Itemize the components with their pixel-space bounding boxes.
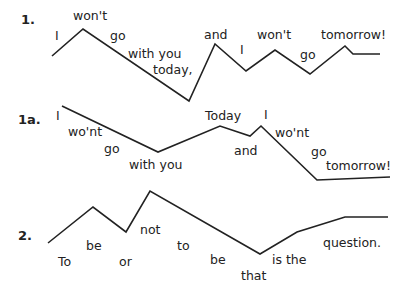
contour-word: go xyxy=(104,143,120,156)
contour-word: question. xyxy=(323,237,381,250)
contour-word: wo'nt xyxy=(275,127,309,140)
contour-word: not xyxy=(140,224,160,237)
contour-word: I xyxy=(56,110,60,123)
contour-word: tomorrow! xyxy=(326,160,391,173)
contour-word: Today xyxy=(205,110,241,123)
example-label-1a: 1a. xyxy=(18,112,41,127)
contour-word: go xyxy=(311,146,327,159)
contour-word: be xyxy=(210,254,226,267)
contour-word: and xyxy=(204,29,228,42)
contour-word: wo'nt xyxy=(68,126,102,139)
contour-word: or xyxy=(119,256,132,269)
example-label-1: 1. xyxy=(21,12,35,27)
contour-word: tomorrow! xyxy=(321,29,386,42)
contour-word: won't xyxy=(257,29,291,42)
contour-word: I xyxy=(55,30,59,43)
contour-word: To xyxy=(58,256,71,269)
contour-word: that xyxy=(241,270,266,283)
contour-word: with you xyxy=(129,159,182,172)
contour-word: go xyxy=(110,30,126,43)
contour-word: is the xyxy=(272,254,306,267)
contour-word: be xyxy=(86,240,102,253)
example-label-2: 2. xyxy=(18,228,32,243)
contour-word: today, xyxy=(153,64,193,77)
contour-word: and xyxy=(234,145,258,158)
contour-word: I xyxy=(264,109,268,122)
contour-word: won't xyxy=(73,10,107,23)
contour-word: to xyxy=(177,240,190,253)
contour-word: go xyxy=(300,49,316,62)
contour-word: with you xyxy=(128,48,181,61)
contour-word: I xyxy=(240,44,244,57)
